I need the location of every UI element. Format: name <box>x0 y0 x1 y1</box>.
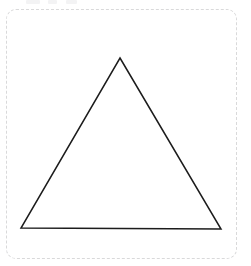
triangle-shape[interactable] <box>21 58 221 229</box>
shape-canvas-app <box>0 0 251 266</box>
drawing-surface[interactable] <box>0 0 251 266</box>
shape-svg <box>0 0 251 266</box>
